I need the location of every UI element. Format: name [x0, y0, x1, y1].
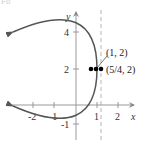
point-marker	[94, 67, 99, 72]
x-tick-label: 1	[94, 111, 99, 122]
focus-annotation: (5/4, 2)	[106, 64, 135, 76]
y-tick-label: 2	[64, 64, 69, 75]
x-tick-label: -1	[49, 111, 57, 122]
point-marker	[99, 67, 104, 72]
y-tick-label: 4	[64, 27, 69, 38]
vertex-annotation: (1, 2)	[106, 47, 128, 59]
parabola-curve	[13, 20, 97, 119]
y-tick-label: -1	[61, 119, 69, 130]
point-marker	[89, 67, 94, 72]
x-tick-label: 2	[115, 111, 120, 122]
parabola-plot: -2 -1 1 2 4 2 -1 y x (1, 2) (5/4, 2)	[0, 0, 143, 142]
x-axis-label: x	[130, 111, 136, 122]
